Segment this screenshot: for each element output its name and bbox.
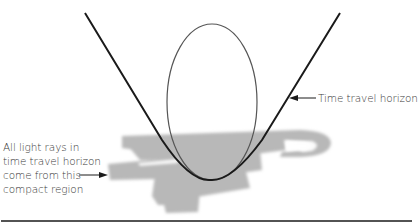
compact-region-label-line-4: compact region — [3, 182, 101, 196]
horizon-arrow — [289, 95, 316, 101]
compact-region-label-line-3: come from this — [3, 168, 101, 182]
compact-region-label-line-1: All light rays in — [3, 140, 101, 154]
compact-region-label-line-2: time travel horizon — [3, 154, 101, 168]
horizon-label: Time travel horizon — [318, 91, 418, 105]
compact-region-label: All light rays in time travel horizon co… — [3, 140, 101, 196]
